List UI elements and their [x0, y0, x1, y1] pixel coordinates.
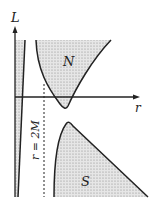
r-axis-label: r	[135, 101, 142, 115]
r-axis-arrow-icon	[133, 95, 140, 100]
region-n-label: N	[62, 54, 75, 69]
region-s-label: S	[81, 174, 90, 189]
l-axis-label: L	[10, 10, 20, 25]
effective-potential-diagram: L r N S r = 2M	[0, 0, 163, 205]
l-axis-arrow-icon	[13, 26, 18, 33]
region-n	[36, 40, 111, 108]
region-s	[54, 122, 148, 197]
dashed-line-label: r = 2M	[29, 120, 42, 160]
